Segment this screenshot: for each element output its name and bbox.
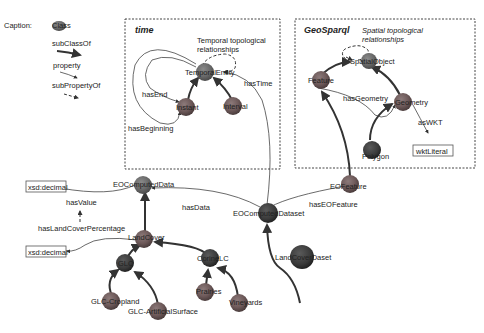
legend-property-arrow-icon	[60, 72, 77, 78]
legend-class-label: Class	[52, 21, 71, 30]
edge-instant-sub-temporal	[188, 78, 198, 100]
has-data-label: hasData	[182, 203, 211, 212]
node-spatial-object-label: SpatialObject	[350, 57, 396, 66]
caption-legend: Caption: Class subClassOf property subPr…	[4, 21, 101, 98]
legend-property-label: property	[53, 61, 81, 70]
node-glc-label: GLC	[118, 259, 134, 268]
as-wkt-label: asWKT	[418, 118, 443, 127]
legend-subproperty-label: subPropertyOf	[52, 81, 101, 90]
time-note-line2: relationships	[197, 45, 239, 54]
time-note-line1: Temporal topological	[197, 36, 266, 45]
edge-has-land-cover-percentage	[67, 238, 137, 251]
node-glc-artificial-surface-label: GLC-ArtificialSurface	[128, 307, 198, 316]
node-eo-computed-data-label: EOComputedData	[113, 180, 175, 189]
node-corine-lc-label: CorineLC	[197, 254, 229, 263]
node-temporal-entity-label: TemporalEntity	[185, 68, 235, 77]
main-literals: xsd:decimal xsd:decimal	[26, 181, 68, 257]
legend-subproperty-arrow-icon	[64, 94, 78, 98]
geo-panel-title: GeoSparql	[304, 25, 350, 35]
decimal-top-label: xsd:decimal	[28, 183, 68, 192]
wkt-literal-label: wktLiteral	[415, 147, 448, 156]
decimal-bottom-label: xsd:decimal	[28, 248, 68, 257]
node-prairies-label: Prairies	[196, 287, 222, 296]
edge-eofeature-sub-feature	[322, 92, 350, 176]
time-panel-title: time	[135, 25, 154, 35]
node-land-cover-label: LandCover	[128, 233, 165, 242]
edge-has-time	[224, 72, 270, 205]
has-value-label: hasValue	[66, 198, 97, 207]
main-nodes: EOComputedData EOComputedDataset EOFeatu…	[91, 175, 367, 320]
legend-subclass-arrow-icon	[57, 51, 80, 55]
edge-interval-sub-temporal	[214, 78, 232, 100]
edge-polygon-sub-geometry	[370, 104, 392, 140]
node-instant-label: Instant	[176, 103, 199, 112]
geo-note-line2: relationships	[362, 35, 404, 44]
geo-note-line1: Spatial topological	[362, 26, 423, 35]
edge-prairies-sub-corine	[206, 270, 208, 285]
has-geometry-label: hasGeometry	[343, 94, 388, 103]
has-eo-feature-label: hasEOFeature	[309, 200, 358, 209]
node-land-cover-dataset-label: LandCoverDaset	[275, 253, 332, 262]
edge-geometry-sub-spatial	[372, 67, 400, 95]
node-glc-cropland-label: GLC-Cropland	[91, 297, 139, 306]
node-eo-feature-label: EOFeature	[330, 182, 367, 191]
node-geometry-label: Geometry	[395, 98, 428, 107]
has-beginning-label: hasBeginning	[128, 124, 173, 133]
node-polygon-label: Polygon	[362, 152, 389, 161]
node-eo-computed-dataset-label: EOComputedDataset	[233, 209, 305, 218]
has-end-label: hasEnd	[142, 90, 167, 99]
node-feature-label: Feature	[308, 76, 334, 85]
time-panel: time Temporal topological relationships …	[125, 19, 280, 205]
has-time-label: hasTime	[244, 79, 272, 88]
ontology-diagram: Caption: Class subClassOf property subPr…	[0, 0, 484, 333]
main-edges: hasEOFeature hasData hasValue hasLandCov…	[38, 92, 358, 305]
legend-subclass-label: subClassOf	[52, 39, 92, 48]
has-land-cover-percentage-label: hasLandCoverPercentage	[38, 224, 125, 233]
caption-label: Caption:	[4, 21, 32, 30]
node-interval-label: Interval	[223, 102, 248, 111]
node-vineyards-label: Vineyards	[229, 298, 262, 307]
